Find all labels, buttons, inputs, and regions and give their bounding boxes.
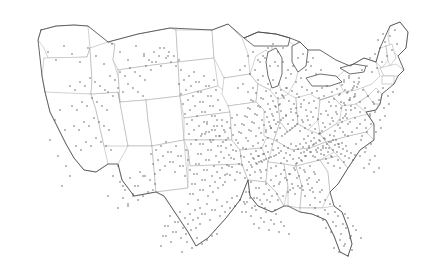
data-point — [89, 77, 91, 79]
data-point — [314, 128, 316, 130]
data-point — [295, 112, 297, 114]
data-point — [346, 150, 348, 152]
data-point — [177, 155, 179, 157]
data-point — [251, 207, 253, 209]
data-point — [270, 179, 272, 181]
data-point — [209, 105, 211, 107]
data-point — [212, 139, 214, 141]
data-point — [359, 111, 361, 113]
data-point — [344, 104, 346, 106]
data-point — [315, 73, 317, 75]
data-point — [174, 171, 176, 173]
data-point — [347, 217, 349, 219]
data-point — [258, 227, 260, 229]
data-point — [309, 204, 311, 206]
data-point — [255, 209, 257, 211]
data-point — [289, 129, 291, 131]
data-point — [220, 145, 222, 147]
data-point — [365, 147, 367, 149]
data-point — [100, 141, 102, 143]
lake-superior — [244, 32, 290, 46]
data-point — [288, 233, 290, 235]
data-point — [74, 89, 76, 91]
data-point — [327, 162, 329, 164]
data-point — [221, 167, 223, 169]
data-point — [310, 65, 312, 67]
data-point — [234, 179, 236, 181]
data-point — [190, 143, 192, 145]
data-point — [229, 174, 231, 176]
data-point — [265, 183, 267, 185]
data-point — [289, 173, 291, 175]
data-point — [159, 169, 161, 171]
data-point — [221, 205, 223, 207]
data-point — [252, 87, 254, 89]
data-point — [325, 227, 327, 229]
data-point — [148, 59, 150, 61]
data-point — [241, 164, 243, 166]
data-point — [262, 75, 264, 77]
data-point — [282, 195, 284, 197]
data-point — [245, 211, 247, 213]
data-point — [311, 92, 313, 94]
data-point — [183, 79, 185, 81]
data-point — [289, 154, 291, 156]
data-point — [233, 158, 235, 160]
data-point — [201, 133, 203, 135]
data-point — [215, 89, 217, 91]
data-point — [292, 187, 294, 189]
data-point — [224, 181, 226, 183]
data-point — [112, 95, 114, 97]
data-point — [261, 119, 263, 121]
data-point — [316, 90, 318, 92]
data-point — [197, 91, 199, 93]
data-point — [178, 83, 180, 85]
data-point — [291, 127, 293, 129]
state-arizona — [118, 146, 156, 196]
data-point — [334, 130, 336, 132]
data-point — [205, 131, 207, 133]
data-point — [299, 187, 301, 189]
data-point — [132, 195, 134, 197]
data-point — [253, 223, 255, 225]
data-point — [343, 79, 345, 81]
data-point — [229, 127, 231, 129]
data-point — [205, 159, 207, 161]
data-point — [326, 85, 328, 87]
data-point — [206, 239, 208, 241]
data-point — [313, 171, 315, 173]
data-point — [263, 159, 265, 161]
data-point — [262, 98, 264, 100]
data-point — [354, 154, 356, 156]
data-point — [320, 113, 322, 115]
data-point — [213, 125, 215, 127]
data-point — [203, 169, 205, 171]
data-point — [353, 81, 355, 83]
data-point — [207, 195, 209, 197]
data-point — [312, 155, 314, 157]
data-point — [227, 137, 229, 139]
data-point — [107, 195, 109, 197]
data-point — [347, 135, 349, 137]
data-point — [112, 175, 114, 177]
data-point — [311, 187, 313, 189]
data-point — [172, 231, 174, 233]
data-point — [94, 81, 96, 83]
data-point — [250, 164, 252, 166]
data-point — [314, 207, 316, 209]
data-point — [160, 65, 162, 67]
data-point — [280, 119, 282, 121]
data-point — [200, 153, 202, 155]
data-point — [303, 99, 305, 101]
data-point — [65, 165, 67, 167]
data-point — [300, 77, 302, 79]
data-point — [201, 213, 203, 215]
data-point — [272, 115, 274, 117]
data-point — [243, 124, 245, 126]
data-point — [350, 235, 352, 237]
data-point — [340, 233, 342, 235]
data-point — [49, 139, 51, 141]
data-point — [268, 121, 270, 123]
data-point — [314, 156, 316, 158]
data-point — [298, 96, 300, 98]
